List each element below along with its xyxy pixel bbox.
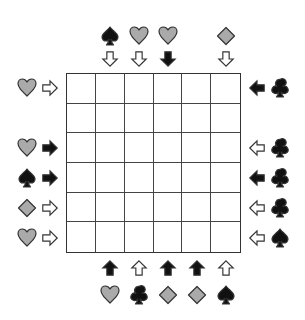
grid-cell-r0-c1[interactable]	[96, 74, 125, 104]
grid-cell-r5-c3[interactable]	[154, 222, 183, 252]
club-icon	[270, 78, 290, 98]
arrow-right-filled-icon	[41, 169, 59, 187]
heart-icon	[158, 26, 178, 46]
grid-cell-r2-c5[interactable]	[211, 133, 240, 163]
grid-cell-r4-c4[interactable]	[182, 193, 211, 223]
arrow-left-hollow-icon	[246, 197, 268, 219]
grid-cell-r1-c4[interactable]	[182, 104, 211, 134]
grid-cell-r2-c0[interactable]	[67, 133, 96, 163]
grid-cell-r4-c2[interactable]	[125, 193, 154, 223]
arrow-left-hollow-icon	[248, 199, 266, 217]
puzzle-grid	[66, 73, 241, 253]
arrow-down-hollow-icon	[215, 48, 237, 70]
grid-cell-r1-c3[interactable]	[154, 104, 183, 134]
arrow-up-hollow-icon	[130, 259, 148, 277]
arrow-left-hollow-icon	[246, 227, 268, 249]
grid-cell-r5-c4[interactable]	[182, 222, 211, 252]
arrow-up-filled-icon	[101, 259, 119, 277]
arrow-right-hollow-icon	[39, 227, 61, 249]
arrow-right-hollow-icon	[41, 229, 59, 247]
arrow-down-filled-icon	[159, 50, 177, 68]
grid-cell-r3-c3[interactable]	[154, 163, 183, 193]
arrow-down-hollow-icon	[128, 48, 150, 70]
heart-icon	[16, 137, 38, 159]
spade-icon	[269, 227, 291, 249]
grid-cell-r3-c0[interactable]	[67, 163, 96, 193]
diamond-icon	[157, 284, 179, 306]
arrow-left-hollow-icon	[248, 229, 266, 247]
club-icon	[270, 138, 290, 158]
grid-cell-r4-c0[interactable]	[67, 193, 96, 223]
club-icon	[269, 197, 291, 219]
arrow-up-filled-icon	[157, 257, 179, 279]
arrow-down-filled-icon	[157, 48, 179, 70]
arrow-up-filled-icon	[186, 257, 208, 279]
arrow-down-hollow-icon	[101, 50, 119, 68]
arrow-up-hollow-icon	[215, 257, 237, 279]
heart-icon	[99, 284, 121, 306]
grid-cell-r5-c0[interactable]	[67, 222, 96, 252]
arrow-up-filled-icon	[99, 257, 121, 279]
grid-cell-r1-c0[interactable]	[67, 104, 96, 134]
heart-icon	[17, 138, 37, 158]
grid-cell-r2-c1[interactable]	[96, 133, 125, 163]
arrow-up-hollow-icon	[128, 257, 150, 279]
grid-cell-r3-c5[interactable]	[211, 163, 240, 193]
spade-icon	[216, 285, 236, 305]
arrow-left-filled-icon	[248, 169, 266, 187]
arrow-left-filled-icon	[246, 77, 268, 99]
grid-cell-r4-c3[interactable]	[154, 193, 183, 223]
arrow-left-hollow-icon	[248, 139, 266, 157]
grid-cell-r1-c5[interactable]	[211, 104, 240, 134]
grid-cell-r3-c2[interactable]	[125, 163, 154, 193]
club-icon	[270, 168, 290, 188]
heart-icon	[129, 26, 149, 46]
club-icon	[269, 77, 291, 99]
grid-cell-r4-c1[interactable]	[96, 193, 125, 223]
spade-icon	[100, 26, 120, 46]
arrow-left-filled-icon	[246, 167, 268, 189]
heart-icon	[17, 228, 37, 248]
arrow-right-filled-icon	[39, 167, 61, 189]
grid-cell-r5-c5[interactable]	[211, 222, 240, 252]
grid-cell-r1-c1[interactable]	[96, 104, 125, 134]
grid-cell-r2-c4[interactable]	[182, 133, 211, 163]
grid-cell-r0-c5[interactable]	[211, 74, 240, 104]
spade-icon	[99, 25, 121, 47]
arrow-left-filled-icon	[248, 79, 266, 97]
grid-cell-r3-c4[interactable]	[182, 163, 211, 193]
diamond-icon	[216, 26, 236, 46]
arrow-right-hollow-icon	[41, 79, 59, 97]
grid-cell-r1-c2[interactable]	[125, 104, 154, 134]
heart-icon	[16, 227, 38, 249]
diamond-icon	[215, 25, 237, 47]
spade-icon	[16, 167, 38, 189]
club-icon	[269, 137, 291, 159]
arrow-right-hollow-icon	[39, 197, 61, 219]
arrow-down-hollow-icon	[99, 48, 121, 70]
arrow-right-hollow-icon	[41, 199, 59, 217]
heart-icon	[17, 78, 37, 98]
grid-cell-r0-c4[interactable]	[182, 74, 211, 104]
grid-cell-r3-c1[interactable]	[96, 163, 125, 193]
grid-cell-r2-c2[interactable]	[125, 133, 154, 163]
diamond-icon	[187, 285, 207, 305]
club-icon	[270, 198, 290, 218]
diamond-icon	[158, 285, 178, 305]
grid-cell-r0-c3[interactable]	[154, 74, 183, 104]
grid-cell-r0-c0[interactable]	[67, 74, 96, 104]
diamond-icon	[16, 197, 38, 219]
heart-icon	[157, 25, 179, 47]
spade-icon	[215, 284, 237, 306]
grid-cell-r2-c3[interactable]	[154, 133, 183, 163]
heart-icon	[100, 285, 120, 305]
arrow-up-hollow-icon	[217, 259, 235, 277]
grid-cell-r5-c2[interactable]	[125, 222, 154, 252]
arrow-right-filled-icon	[41, 139, 59, 157]
heart-icon	[16, 77, 38, 99]
grid-cell-r4-c5[interactable]	[211, 193, 240, 223]
grid-cell-r0-c2[interactable]	[125, 74, 154, 104]
arrow-down-hollow-icon	[217, 50, 235, 68]
grid-cell-r5-c1[interactable]	[96, 222, 125, 252]
arrow-left-hollow-icon	[246, 137, 268, 159]
